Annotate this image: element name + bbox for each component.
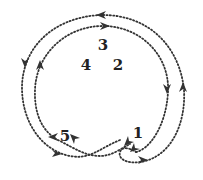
label-1: 1 xyxy=(133,126,143,141)
arrow-right-icon xyxy=(138,156,148,164)
arrow-up-icon xyxy=(179,82,187,92)
label-4: 4 xyxy=(81,58,91,73)
label-5: 5 xyxy=(60,129,70,144)
arrow-down-icon xyxy=(163,84,171,94)
label-3: 3 xyxy=(98,38,108,53)
arrow-up-left-icon xyxy=(70,134,80,144)
arrow-down-icon xyxy=(21,58,29,68)
loop-diagram xyxy=(0,0,203,180)
label-2: 2 xyxy=(113,58,123,73)
